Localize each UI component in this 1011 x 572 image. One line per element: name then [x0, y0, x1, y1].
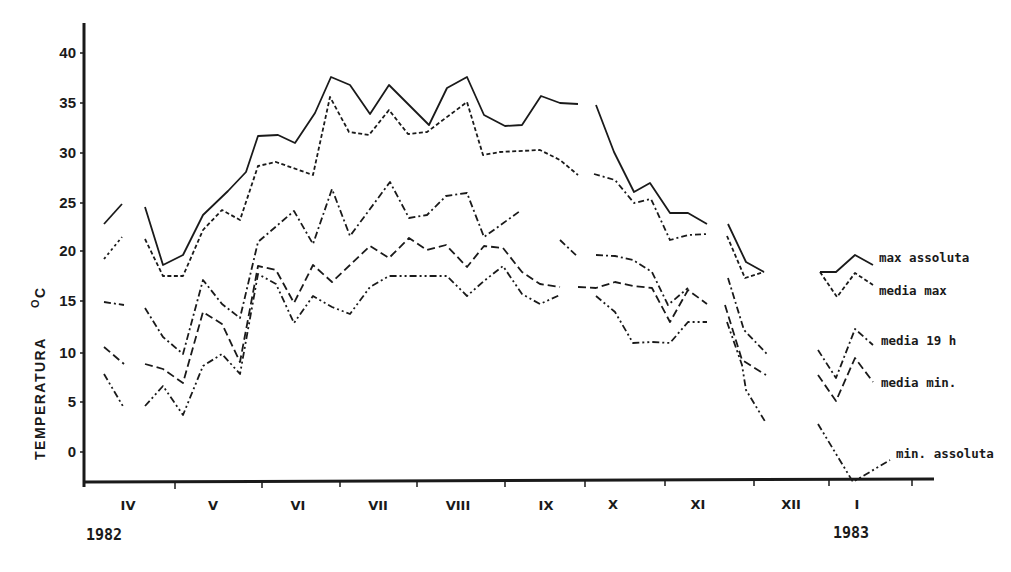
series-media-min [104, 238, 873, 401]
month-VII: VII [368, 498, 388, 513]
y-axis-title: TEMPERATURA O C [29, 286, 48, 460]
legend: max assoluta media max media 19 h media … [879, 250, 994, 461]
legend-media-19h: media 19 h [881, 333, 956, 348]
x-axis [84, 479, 934, 489]
month-I: I [855, 497, 860, 512]
y-tick-0: 0 [68, 443, 76, 460]
y-tick-labels: 40 35 30 25 20 15 10 5 0 [59, 44, 76, 460]
month-VI: VI [291, 498, 306, 513]
series-media-max [104, 97, 873, 297]
y-tick-40: 40 [59, 44, 76, 61]
y-tick-30: 30 [59, 144, 76, 161]
temperature-chart: 40 35 30 25 20 15 10 5 0 TEMPERATURA O C… [0, 0, 1011, 572]
legend-media-min: media min. [881, 375, 956, 390]
series-min-assoluta [104, 266, 890, 482]
month-VIII: VIII [446, 498, 471, 513]
series-media-19h [104, 182, 873, 378]
year-1983: 1983 [833, 524, 869, 542]
degree-symbol: O [29, 298, 41, 308]
y-tick-35: 35 [59, 94, 76, 111]
month-V: V [208, 498, 218, 513]
y-tick-5: 5 [68, 393, 76, 410]
series-max-assoluta [104, 77, 873, 272]
legend-min-assoluta: min. assoluta [896, 446, 994, 461]
y-tick-15: 15 [59, 292, 76, 309]
legend-max-assoluta: max assoluta [879, 250, 969, 265]
y-tick-10: 10 [59, 344, 76, 361]
x-tick-labels: IV V VI VII VIII IX X XI XII I 1982 1983 [86, 497, 869, 544]
y-tick-20: 20 [59, 242, 76, 259]
month-IV: IV [121, 498, 136, 513]
month-X: X [608, 497, 618, 512]
month-XII: XII [781, 497, 801, 512]
legend-media-max: media max [879, 283, 947, 298]
month-XI: XI [691, 497, 706, 512]
y-axis [80, 23, 84, 487]
celsius-unit: C [32, 286, 48, 298]
month-IX: IX [539, 498, 554, 513]
y-tick-25: 25 [59, 194, 76, 211]
y-axis-label: TEMPERATURA [32, 337, 48, 460]
year-1982: 1982 [86, 526, 122, 544]
